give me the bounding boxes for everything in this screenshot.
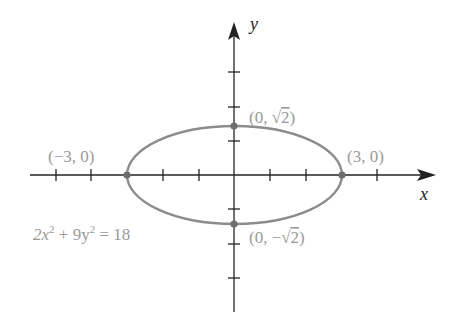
point-left bbox=[123, 171, 130, 178]
label-bottom-point: (0, −√2) bbox=[249, 228, 305, 247]
label-left-point: (−3, 0) bbox=[48, 147, 94, 166]
ellipse-diagram: y x (0, √2) (3, 0) (−3, 0) (0, −√2) 2x2 … bbox=[0, 0, 465, 332]
label-top-point: (0, √2) bbox=[249, 108, 295, 127]
x-axis-label: x bbox=[419, 184, 428, 204]
point-bottom bbox=[230, 220, 237, 227]
y-axis bbox=[228, 22, 240, 312]
x-axis bbox=[30, 169, 436, 181]
point-right bbox=[338, 171, 345, 178]
label-right-point: (3, 0) bbox=[347, 147, 384, 166]
y-axis-label: y bbox=[248, 14, 258, 34]
point-top bbox=[230, 122, 237, 129]
equation-label: 2x2 + 9y2 = 18 bbox=[33, 223, 130, 244]
